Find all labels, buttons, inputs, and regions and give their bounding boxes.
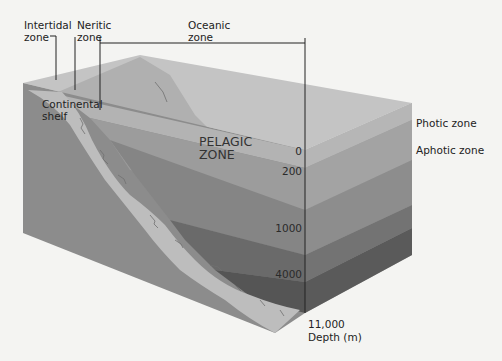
ocean-zones-diagram: Intertidal zone Neritic zone Oceanic zon… [0, 0, 502, 361]
label-pelagic-zone: PELAGIC ZONE [199, 135, 252, 161]
depth-tick-200: 200 [262, 165, 302, 177]
label-continental-shelf: Continental shelf [42, 98, 103, 122]
depth-bottom-value: 11,000 [308, 318, 345, 330]
label-neritic-zone: Neritic zone [77, 19, 111, 43]
label-photic-zone: Photic zone [416, 117, 477, 129]
depth-tick-4000: 4000 [262, 268, 302, 280]
label-intertidal-zone: Intertidal zone [24, 19, 72, 43]
depth-tick-0: 0 [262, 145, 302, 157]
depth-unit-label: Depth (m) [308, 331, 362, 343]
label-oceanic-zone: Oceanic zone [188, 19, 230, 43]
depth-tick-1000: 1000 [262, 222, 302, 234]
ocean-block-illustration [0, 0, 502, 361]
label-aphotic-zone: Aphotic zone [416, 144, 484, 156]
